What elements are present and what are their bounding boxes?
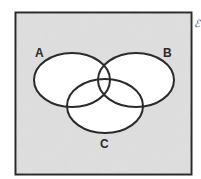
set-a-label: A	[35, 46, 44, 60]
universal-set-label: ℰ	[194, 18, 201, 29]
set-b-label: B	[163, 46, 172, 60]
venn-diagram: A B C ℰ	[0, 0, 201, 179]
set-c-label: C	[100, 137, 109, 151]
